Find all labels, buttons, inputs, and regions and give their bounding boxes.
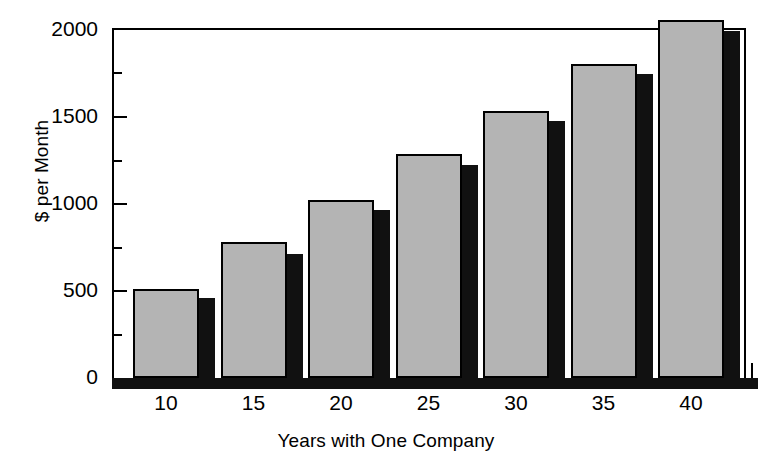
bar-primary-35[interactable] (571, 64, 637, 378)
bar-primary-40[interactable] (658, 20, 724, 378)
y-tick-label-1500: 1500 (38, 105, 98, 126)
x-tick-40 (751, 363, 753, 378)
x-tick-label-25: 25 (399, 392, 459, 414)
y-tick-label-500: 500 (38, 279, 98, 300)
y-axis-tick-labels: 2000 1500 1000 500 0 (26, 0, 98, 464)
x-tick-label-40: 40 (661, 392, 721, 414)
y-tick-label-2000: 2000 (38, 18, 98, 39)
x-tick-label-30: 30 (486, 392, 546, 414)
bar-primary-20[interactable] (308, 200, 374, 379)
y-tick-label-0: 0 (38, 366, 98, 387)
bar-primary-30[interactable] (483, 111, 549, 378)
bars-layer (112, 28, 772, 378)
x-axis-title: Years with One Company (0, 430, 772, 452)
bar-primary-15[interactable] (221, 242, 287, 378)
x-tick-label-20: 20 (311, 392, 371, 414)
x-tick-label-35: 35 (574, 392, 634, 414)
bar-chart: $ per Month 2000 1500 1000 500 0 1015202… (0, 0, 772, 464)
bar-primary-25[interactable] (396, 154, 462, 378)
x-tick-label-15: 15 (224, 392, 284, 414)
bar-primary-10[interactable] (133, 289, 199, 378)
y-tick-label-1000: 1000 (38, 192, 98, 213)
x-tick-label-10: 10 (136, 392, 196, 414)
x-axis-baseline (112, 378, 758, 389)
